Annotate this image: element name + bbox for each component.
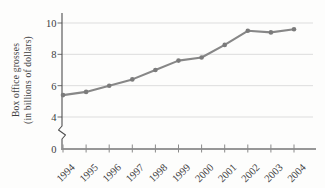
data-point-2001 (222, 43, 227, 48)
y-tick-label-0: 0 (51, 144, 56, 155)
x-tick-label-1994: 1994 (54, 161, 77, 184)
data-point-2004 (292, 27, 297, 32)
data-point-2000 (199, 55, 204, 60)
y-tick-label-4: 4 (51, 112, 57, 123)
data-point-2002 (246, 29, 251, 34)
data-point-2003 (269, 30, 274, 35)
data-point-1994 (61, 93, 66, 98)
chart-plot-area: 0468101994199519961997199819992000200120… (0, 0, 325, 188)
y-tick-label-8: 8 (51, 49, 56, 60)
x-tick-label-1995: 1995 (77, 162, 100, 185)
x-tick-label-2004: 2004 (285, 161, 308, 184)
y-tick-label-10: 10 (46, 18, 57, 29)
x-tick-label-1996: 1996 (100, 162, 123, 185)
data-point-1995 (84, 90, 89, 95)
x-tick-label-1998: 1998 (147, 162, 170, 185)
x-tick-label-2002: 2002 (239, 162, 262, 185)
y-tick-label-6: 6 (51, 81, 56, 92)
data-point-1996 (107, 83, 112, 88)
x-tick-label-2001: 2001 (216, 162, 239, 185)
data-point-1998 (153, 68, 158, 73)
x-tick-label-1997: 1997 (124, 162, 147, 185)
x-tick-label-2003: 2003 (262, 162, 285, 185)
data-point-1997 (130, 77, 135, 82)
y-axis-line-with-break (59, 13, 66, 149)
box-office-grosses-line-chart: Box office grosses (in billions of dolla… (0, 0, 325, 188)
data-point-1999 (176, 58, 181, 63)
x-tick-label-2000: 2000 (193, 162, 216, 185)
x-tick-label-1999: 1999 (170, 162, 193, 185)
